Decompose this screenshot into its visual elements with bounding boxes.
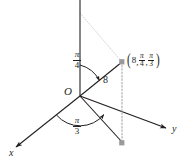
origin-label: O xyxy=(64,86,72,97)
dotted-helper-line xyxy=(80,13,122,62)
spherical-coordinate-diagram: O 8 π 4 π 3 x y ( 8 , π 4 , π 3 ) xyxy=(0,0,193,168)
projection-ray xyxy=(80,96,122,142)
azimuth-angle-numerator: π xyxy=(74,116,81,126)
azimuth-angle-label: π 3 xyxy=(73,116,81,136)
y-axis-label: y xyxy=(172,124,176,134)
coord-phi-denominator: 3 xyxy=(149,60,154,68)
radius-length-label: 8 xyxy=(103,75,108,85)
x-axis-label: x xyxy=(9,148,13,158)
point-marker xyxy=(119,59,124,64)
diagram-canvas xyxy=(0,0,193,168)
coord-open-paren: ( xyxy=(127,53,131,67)
coord-phi-fraction: π 3 xyxy=(148,52,154,68)
polar-angle-arc xyxy=(80,65,100,81)
point-coordinate-label: ( 8 , π 4 , π 3 ) xyxy=(126,52,160,68)
coord-theta-fraction: π 4 xyxy=(139,52,145,68)
x-axis xyxy=(16,96,80,147)
coord-close-paren: ) xyxy=(156,53,160,67)
polar-angle-numerator: π xyxy=(74,50,81,60)
azimuth-angle-denominator: 3 xyxy=(74,127,81,137)
projection-point-marker xyxy=(119,140,124,145)
polar-angle-label: π 4 xyxy=(73,50,81,70)
coord-theta-denominator: 4 xyxy=(140,60,145,68)
polar-angle-denominator: 4 xyxy=(74,61,81,71)
